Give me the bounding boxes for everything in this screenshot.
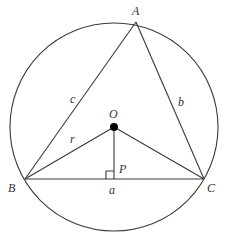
label-P: P [118,162,127,176]
label-B: B [8,181,16,195]
label-radius-r: r [70,132,75,146]
segment-OC [114,127,204,179]
label-C: C [207,181,216,195]
center-point-O [110,123,118,131]
label-O: O [109,107,118,121]
label-side-a: a [109,183,115,197]
label-A: A [131,4,140,18]
side-b-AC [136,22,204,179]
label-side-b: b [178,95,184,109]
right-angle-marker [106,171,114,179]
label-side-c: c [70,92,76,106]
side-c-AB [25,22,136,179]
circumscribed-triangle-diagram: A B C O P a b c r [0,0,227,241]
